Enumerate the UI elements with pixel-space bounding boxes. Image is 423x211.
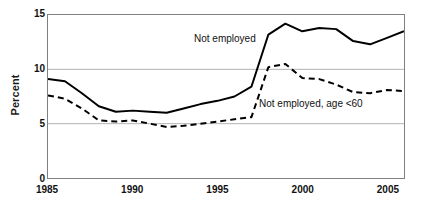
x-tick-label: 1990 [121,184,143,195]
x-tick-label: 2005 [377,184,399,195]
series-line-2 [48,64,404,127]
y-axis-tick-labels: 051015 [21,0,45,211]
y-tick-label: 5 [23,119,45,129]
chart-figure: Percent 051015 19851990199520002005 Not … [0,0,423,211]
x-tick-label: 1985 [36,184,58,195]
series-label-not-employed-age-under-60: Not employed, age <60 [259,98,363,109]
y-tick-label: 0 [23,174,45,184]
y-tick-label: 10 [23,64,45,74]
gridlines [48,69,404,123]
series-label-not-employed: Not employed [194,33,256,44]
x-tick-label: 1995 [206,184,228,195]
y-tick-label: 15 [23,9,45,19]
x-tick-label: 2000 [292,184,314,195]
x-axis-tick-labels: 19851990199520002005 [0,184,423,202]
y-axis-title-text: Percent [9,74,21,115]
